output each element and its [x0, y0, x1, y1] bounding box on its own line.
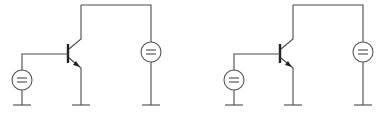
circuit-right [224, 5, 373, 105]
circuit-diagram [0, 0, 386, 113]
circuit-left [12, 5, 161, 105]
